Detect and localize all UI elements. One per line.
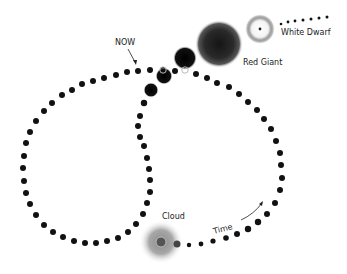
time-arrow-head (259, 201, 263, 206)
white-dwarf-label: White Dwarf (281, 28, 331, 37)
cloud-label: Cloud (162, 212, 185, 221)
red-giant-label: Red Giant (243, 58, 282, 67)
time-label: Time (211, 222, 233, 236)
expanding-star (156, 67, 173, 85)
time-arrow (241, 203, 262, 220)
white-dwarf-star (245, 14, 275, 44)
red-giant-star (195, 20, 243, 68)
cloud-stage (139, 220, 183, 264)
now-label: NOW (115, 38, 135, 47)
main-sequence-star (144, 83, 159, 98)
now-arrow-head (133, 60, 137, 65)
white-dwarf-trail (280, 16, 329, 26)
stellar-lifecycle-diagram: NOW Red Giant White Dwarf Cloud Time (0, 0, 347, 274)
